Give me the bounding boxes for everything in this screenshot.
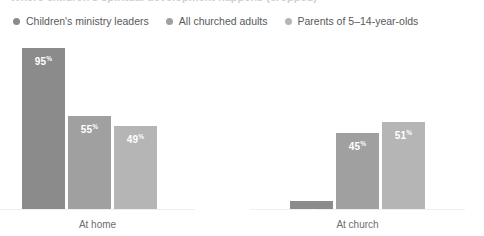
bar-wrap: 5%: [290, 201, 333, 210]
bar-value-label: 49%: [114, 131, 157, 145]
bar-at-home-parents[interactable]: 49%: [114, 126, 157, 209]
group-baseline: [0, 209, 195, 210]
bar-value-label: 51%: [382, 127, 425, 141]
bar-group-at-church: 5% 45% 51% At church: [290, 0, 440, 236]
bar-group-at-home: 95% 55% 49% At home: [22, 0, 172, 236]
bar-set: 95% 55% 49%: [22, 39, 160, 209]
bar-set: 5% 45% 51%: [290, 39, 428, 209]
group-baseline: [250, 209, 465, 210]
bar-at-church-parents[interactable]: 51%: [382, 122, 425, 209]
bar-at-home-childrens-ministry-leaders[interactable]: 95%: [22, 48, 65, 210]
bar-value-label: 5%: [290, 206, 333, 220]
bar-at-church-childrens-ministry-leaders[interactable]: 5%: [290, 201, 333, 210]
bar-at-church-all-churched-adults[interactable]: 45%: [336, 133, 379, 210]
group-label-at-church: At church: [250, 219, 465, 230]
bar-wrap: 51%: [382, 122, 425, 209]
chart-plot-area: 95% 55% 49% At home 5%: [0, 0, 484, 236]
bar-value-label: 45%: [336, 138, 379, 152]
bar-wrap: 45%: [336, 133, 379, 210]
bar-at-home-all-churched-adults[interactable]: 55%: [68, 116, 111, 210]
bar-value-label: 55%: [68, 121, 111, 135]
bar-value-label: 95%: [22, 53, 65, 67]
group-label-at-home: At home: [0, 219, 195, 230]
bar-wrap: 55%: [68, 116, 111, 210]
bar-wrap: 49%: [114, 126, 157, 209]
bar-wrap: 95%: [22, 48, 65, 210]
